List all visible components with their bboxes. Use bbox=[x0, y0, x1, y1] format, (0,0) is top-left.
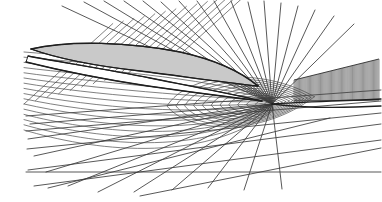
figure-root: Perspective view of a curvilinear comput… bbox=[0, 0, 382, 202]
technical-diagram-canvas: Perspective view of a curvilinear comput… bbox=[0, 0, 382, 202]
